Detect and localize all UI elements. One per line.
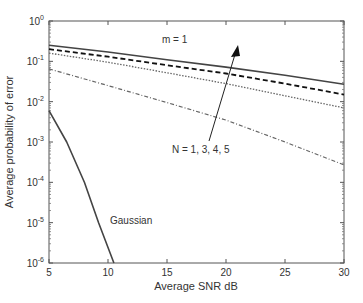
- y-tick-label: 10-3: [27, 135, 44, 148]
- m-annotation: m = 1: [162, 34, 188, 45]
- chart: 51015202530 10010-110-210-310-410-510-6 …: [0, 0, 363, 303]
- y-tick-label: 10-1: [27, 54, 44, 67]
- y-tick-label: 10-5: [27, 216, 44, 229]
- gaussian-annotation: Gaussian: [110, 215, 152, 226]
- x-tick-label: 30: [338, 267, 350, 278]
- x-tick-label: 15: [161, 267, 173, 278]
- x-tick-label: 20: [220, 267, 232, 278]
- x-tick-label: 10: [102, 267, 114, 278]
- y-tick-label: 10-6: [27, 256, 44, 269]
- x-tick-label: 25: [279, 267, 291, 278]
- n-annotation: N = 1, 3, 4, 5: [172, 144, 230, 155]
- x-axis-label: Average SNR dB: [154, 280, 238, 292]
- y-tick-label: 10-4: [27, 175, 44, 188]
- y-tick-label: 10-2: [27, 95, 44, 108]
- y-tick-labels: 10010-110-210-310-410-510-6: [27, 14, 44, 269]
- x-tick-label: 5: [46, 267, 52, 278]
- y-tick-label: 100: [29, 14, 44, 27]
- y-axis-label: Average probability of error: [3, 75, 15, 208]
- x-tick-labels: 51015202530: [46, 267, 350, 278]
- plot-area: [49, 21, 344, 263]
